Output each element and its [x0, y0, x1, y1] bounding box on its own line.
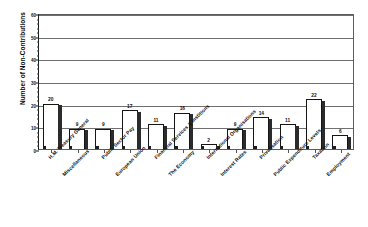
x-axis-tick-mark	[130, 150, 131, 153]
bar-base-marker	[201, 146, 204, 149]
bar-value-label: 2	[201, 138, 217, 143]
bar[interactable]	[253, 117, 269, 149]
bar-base-marker	[122, 146, 125, 149]
bar-shade-face	[85, 130, 88, 149]
bar-base-marker	[253, 146, 256, 149]
bar-shade-face	[137, 112, 140, 149]
bar-column[interactable]: 20	[43, 15, 62, 149]
bar-column[interactable]: 2	[201, 15, 220, 149]
bar-value-label: 9	[95, 122, 111, 127]
y-axis-tick-mark	[36, 151, 39, 152]
bar[interactable]	[43, 104, 59, 149]
x-axis-category-label: Miscellaneous	[61, 148, 90, 177]
bar-base-marker	[95, 146, 98, 149]
bar-base-marker	[69, 146, 72, 149]
bar-column[interactable]: 11	[280, 15, 299, 149]
bar-column[interactable]: 11	[148, 15, 167, 149]
bar-base-marker	[280, 146, 283, 149]
x-axis-tick-mark	[288, 150, 289, 153]
bar-value-label: 20	[43, 97, 59, 102]
x-axis-category-label: Employment	[325, 151, 351, 177]
x-axis-category-label: Interest Rates	[219, 149, 248, 178]
x-axis-tick-mark	[78, 150, 79, 153]
bar-chart-figure: Number of Non-Contributions 010203040506…	[0, 0, 368, 227]
bar-value-label: 17	[122, 104, 138, 109]
bar-value-label: 11	[280, 118, 296, 123]
bar-base-marker	[43, 146, 46, 149]
x-axis-category-label: The Economy	[167, 149, 195, 177]
bar-value-label: 6	[332, 129, 348, 134]
bar-base-marker	[227, 146, 230, 149]
bar-column[interactable]: 6	[332, 15, 351, 149]
bar-shade-face	[243, 130, 246, 149]
bar-series: 2099171116291411226	[39, 15, 353, 149]
plot-area: 0102030405060 2099171116291411226	[38, 14, 354, 150]
bar-base-marker	[174, 146, 177, 149]
x-axis-tick-mark	[341, 150, 342, 153]
bar-column[interactable]: 14	[253, 15, 272, 149]
bar-base-marker	[332, 146, 335, 149]
bar-value-label: 22	[306, 93, 322, 98]
y-axis-title: Number of Non-Contributions	[19, 0, 26, 129]
bar-value-label: 11	[148, 118, 164, 123]
x-axis-tick-mark	[183, 150, 184, 153]
bar-value-label: 16	[174, 106, 190, 111]
bar-base-marker	[148, 146, 151, 149]
x-axis-tick-mark	[236, 150, 237, 153]
bar-shade-face	[348, 137, 351, 149]
bar-column[interactable]: 9	[95, 15, 114, 149]
